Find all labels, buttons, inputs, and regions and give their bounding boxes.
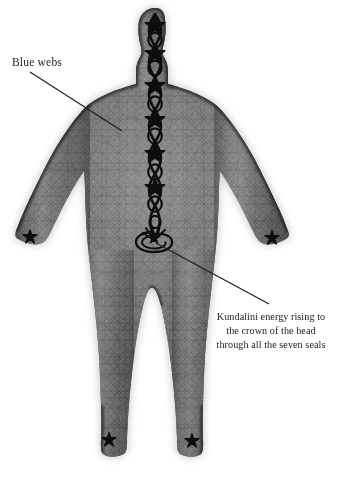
kundalini-text-line-2: the crown of the head [203, 324, 339, 338]
annotation-label-blue-webs: Blue webs [12, 56, 62, 70]
illustration-canvas: Blue webs Kundalini energy rising to the… [0, 0, 339, 483]
annotation-label-kundalini: Kundalini energy rising to the crown of … [203, 310, 339, 352]
kundalini-text-line-3: through all the seven seals [203, 338, 339, 352]
kundalini-text-line-1: Kundalini energy rising to [203, 310, 339, 324]
blue-webs-text: Blue webs [12, 56, 62, 68]
energy-body-figure [0, 0, 339, 483]
